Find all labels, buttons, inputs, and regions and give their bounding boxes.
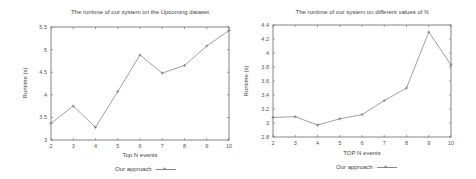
x-tick-label: 5 — [116, 143, 119, 149]
y-tick-label: 3 — [266, 120, 269, 126]
chart-right-legend: Our approach — [336, 164, 397, 170]
y-tick-label: 3.5 — [39, 114, 47, 120]
legend-line-icon — [156, 169, 176, 170]
x-tick-label: 7 — [383, 140, 386, 146]
y-tick-label: 4.5 — [39, 69, 47, 75]
plot-frame — [51, 27, 229, 140]
y-tick-label: 3.2 — [261, 106, 269, 112]
x-tick-label: 6 — [360, 140, 363, 146]
x-tick-label: 3 — [294, 140, 297, 146]
y-tick-label: 5 — [44, 47, 47, 53]
y-tick-label: 4 — [266, 50, 269, 56]
data-point-marker — [272, 116, 275, 119]
data-point-marker — [316, 124, 319, 127]
y-tick-label: 4.4 — [261, 22, 269, 28]
data-point-marker — [294, 115, 297, 118]
x-tick-label: 9 — [205, 143, 208, 149]
plot-frame — [273, 25, 451, 137]
chart-left-xlabel: Top N events — [51, 152, 229, 158]
chart-right-xlabel: TOP N events — [273, 150, 451, 156]
x-tick-label: 2 — [271, 140, 274, 146]
chart-left-legend: Our approach — [115, 166, 176, 172]
data-point-marker — [338, 117, 341, 120]
x-tick-label: 2 — [49, 143, 52, 149]
x-tick-label: 6 — [138, 143, 141, 149]
chart-left: The runtime of our system on the Upcomin… — [0, 0, 240, 179]
y-tick-label: 5.5 — [39, 24, 47, 30]
x-tick-label: 10 — [226, 143, 232, 149]
y-tick-label: 4 — [44, 92, 47, 98]
legend-label: Our approach — [115, 166, 152, 172]
y-tick-label: 3.8 — [261, 64, 269, 70]
series-line — [51, 31, 229, 128]
x-tick-label: 5 — [338, 140, 341, 146]
chart-right: The runtime of our system on different v… — [240, 0, 476, 179]
x-tick-label: 9 — [427, 140, 430, 146]
y-tick-label: 4.2 — [261, 36, 269, 42]
legend-label: Our approach — [336, 164, 373, 170]
x-tick-label: 10 — [448, 140, 454, 146]
x-tick-label: 8 — [183, 143, 186, 149]
y-tick-label: 3.6 — [261, 78, 269, 84]
x-tick-label: 4 — [94, 143, 97, 149]
y-tick-label: 2.8 — [261, 134, 269, 140]
series-line — [273, 32, 451, 125]
y-tick-label: 3.4 — [261, 92, 269, 98]
chart-right-ylabel: Runtime (s) — [243, 61, 249, 101]
x-tick-label: 3 — [72, 143, 75, 149]
y-tick-label: 3 — [44, 137, 47, 143]
x-tick-label: 4 — [316, 140, 319, 146]
chart-left-ylabel: Runtime (s) — [22, 63, 28, 103]
legend-line-icon — [377, 167, 397, 168]
x-tick-label: 8 — [405, 140, 408, 146]
x-tick-label: 7 — [161, 143, 164, 149]
